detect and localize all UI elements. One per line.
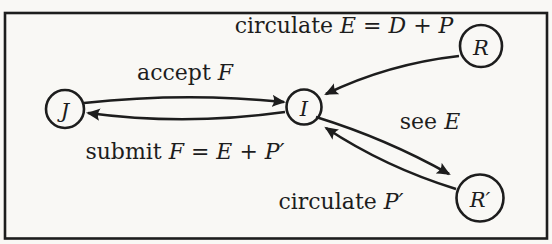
edge-circulate-Pprime-Rprime-to-I bbox=[326, 128, 456, 189]
edge-label-circulate-top-verb: circulate bbox=[235, 13, 333, 38]
edge-label-accept-verb: accept bbox=[137, 60, 211, 85]
node-label-R: R bbox=[472, 36, 489, 60]
node-label-R-prime: R′ bbox=[469, 188, 491, 212]
diagram-frame bbox=[5, 13, 547, 239]
edge-circulate-E-R-to-I bbox=[326, 56, 459, 94]
edge-label-circulate-top: circulateE = D + P bbox=[235, 13, 455, 38]
diagram-canvas: J I R R′ circulateE = D + P acceptF subm… bbox=[0, 0, 552, 244]
edge-label-submit: submitF = E + P′ bbox=[85, 139, 284, 164]
edge-submit-I-to-J bbox=[88, 112, 285, 119]
edge-label-circulate-top-math: E = D + P bbox=[339, 13, 455, 38]
edge-accept-J-to-I bbox=[84, 97, 284, 103]
edge-label-accept-math: F bbox=[217, 60, 234, 85]
figure-stage: J I R R′ circulateE = D + P acceptF subm… bbox=[0, 0, 552, 244]
edge-label-submit-verb: submit bbox=[85, 139, 161, 164]
edge-label-see: seeE bbox=[400, 109, 460, 134]
node-label-I: I bbox=[299, 97, 309, 121]
edge-label-see-math: E bbox=[443, 109, 460, 134]
edge-label-circulate-bottom: circulateP′ bbox=[278, 189, 403, 214]
edge-label-circulate-bottom-math: P′ bbox=[383, 189, 404, 214]
edge-label-submit-math: F = E + P′ bbox=[168, 139, 285, 164]
edge-label-see-verb: see bbox=[400, 109, 437, 134]
edge-label-circulate-bottom-verb: circulate bbox=[278, 189, 376, 214]
node-label-J: J bbox=[57, 99, 71, 123]
edge-label-accept: acceptF bbox=[137, 60, 234, 85]
